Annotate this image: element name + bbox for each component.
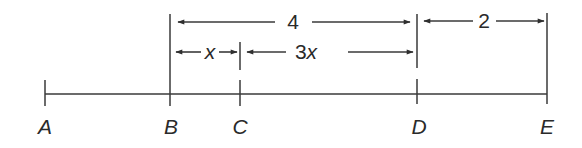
segment-diagram: 4 2 x 3x A B C D E	[0, 0, 582, 148]
dimension-BD: 4	[178, 10, 410, 33]
dimension-BC: x	[176, 40, 237, 63]
point-label-A: A	[36, 115, 52, 138]
point-label-B: B	[164, 115, 178, 138]
point-label-C: C	[232, 115, 248, 138]
dimension-DE: 2	[424, 9, 544, 32]
dimension-label-CD: 3x	[295, 40, 319, 63]
dimension-CD: 3x	[247, 40, 413, 63]
point-label-D: D	[411, 115, 426, 138]
dimension-label-BC: x	[204, 40, 217, 63]
point-label-E: E	[540, 115, 555, 138]
dimension-label-DE: 2	[478, 9, 490, 32]
dimension-label-BD: 4	[287, 10, 299, 33]
